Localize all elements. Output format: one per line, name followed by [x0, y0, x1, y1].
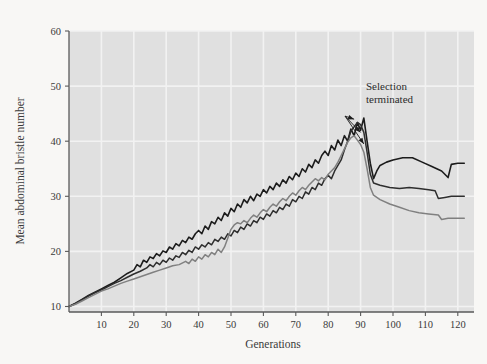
- y-tick-label: 50: [51, 81, 62, 92]
- y-tick-label: 10: [51, 301, 62, 312]
- y-tick-label: 20: [51, 246, 62, 257]
- y-tick-label: 60: [51, 26, 62, 37]
- x-tick-label: 70: [291, 319, 302, 330]
- x-tick-label: 50: [226, 319, 237, 330]
- x-tick-label: 40: [193, 319, 204, 330]
- annotation-line-2: terminated: [366, 93, 414, 105]
- y-axis-label: Mean abdominal bristle number: [14, 97, 26, 244]
- x-tick-label: 110: [418, 319, 433, 330]
- figure-container: 102030405060708090100110120 102030405060…: [0, 0, 487, 364]
- annotation-line-1: Selection: [366, 80, 407, 92]
- y-tick-label: 40: [51, 136, 62, 147]
- x-tick-label: 100: [385, 319, 401, 330]
- plot-background: [69, 31, 474, 312]
- x-tick-label: 80: [323, 319, 334, 330]
- y-tick-label: 30: [51, 191, 62, 202]
- x-axis-label: Generations: [245, 338, 301, 350]
- x-tick-label: 20: [129, 319, 140, 330]
- x-tick-label: 90: [355, 319, 366, 330]
- x-tick-label: 10: [96, 319, 107, 330]
- x-tick-label: 60: [258, 319, 269, 330]
- bristle-selection-chart: 102030405060708090100110120 102030405060…: [0, 0, 487, 364]
- x-tick-label: 30: [161, 319, 172, 330]
- x-tick-label: 120: [450, 319, 466, 330]
